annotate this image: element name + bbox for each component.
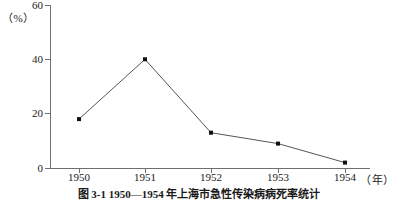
series-line — [79, 59, 345, 162]
figure-caption: 图 3-1 1950—1954 年上海市急性传染病病死率统计 — [0, 188, 398, 200]
data-point-1954 — [343, 161, 347, 165]
data-point-1952 — [209, 131, 213, 135]
data-point-1953 — [276, 142, 280, 146]
series-markers — [77, 57, 347, 164]
data-point-1950 — [77, 117, 81, 121]
line-plot — [0, 0, 398, 200]
data-point-1951 — [143, 57, 147, 61]
figure-container: （%） （年） 60 40 20 0 1950 1951 1952 1953 1… — [0, 0, 398, 200]
